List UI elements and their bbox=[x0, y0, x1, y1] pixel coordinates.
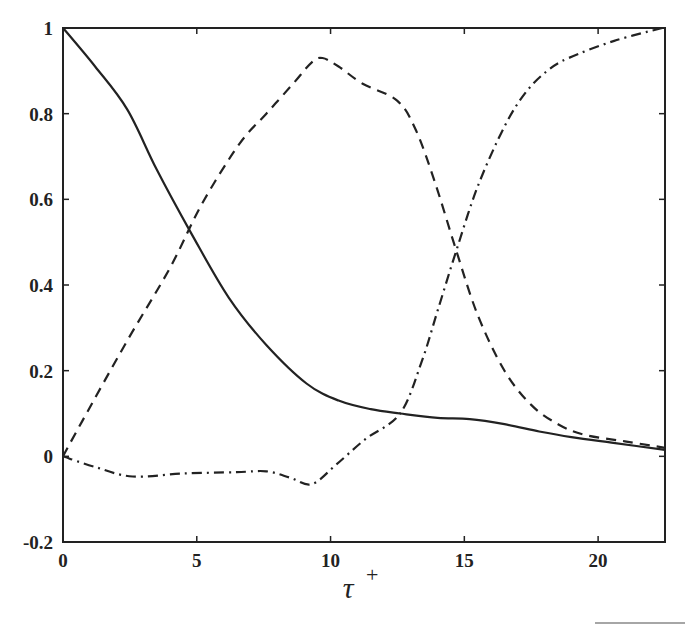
x-tick-label: 20 bbox=[589, 550, 608, 571]
x-tick-label: 0 bbox=[58, 550, 68, 571]
series-dashed bbox=[63, 58, 665, 457]
x-tick-label: 15 bbox=[455, 550, 474, 571]
x-tick-label: 10 bbox=[321, 550, 340, 571]
y-tick-label: 1 bbox=[44, 18, 54, 39]
y-tick-label: 0 bbox=[44, 446, 54, 467]
y-tick-label: 0.4 bbox=[29, 275, 53, 296]
line-chart: 05101520-0.200.20.40.60.81 τ + bbox=[0, 0, 685, 628]
tick-labels: 05101520-0.200.20.40.60.81 bbox=[23, 18, 608, 571]
series-dash-dot bbox=[63, 28, 662, 485]
plot-frame bbox=[63, 28, 665, 542]
y-tick-label: 0.6 bbox=[29, 189, 53, 210]
ticks-layer bbox=[63, 28, 665, 542]
y-tick-label: -0.2 bbox=[23, 532, 53, 553]
x-axis-label: τ bbox=[343, 571, 355, 604]
y-tick-label: 0.2 bbox=[29, 361, 53, 382]
series-solid bbox=[63, 28, 665, 450]
series-layer bbox=[63, 28, 665, 485]
y-tick-label: 0.8 bbox=[29, 104, 53, 125]
x-axis-label-superscript: + bbox=[366, 562, 378, 587]
x-tick-label: 5 bbox=[192, 550, 202, 571]
